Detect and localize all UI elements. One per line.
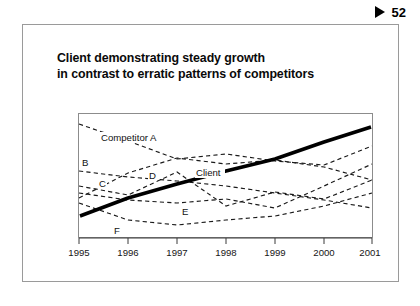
page-title-line-1: Client demonstrating steady growth xyxy=(57,51,377,67)
series-label-competitor-f: F xyxy=(114,225,120,236)
series-label-competitor-b: B xyxy=(82,157,88,168)
series-label-competitor-d: D xyxy=(149,170,156,181)
page-marker: 52 xyxy=(375,4,406,20)
x-tick-label: 1996 xyxy=(117,247,138,258)
series-label-competitor-a: Competitor A xyxy=(101,132,157,143)
x-tick-label: 1999 xyxy=(264,247,285,258)
page-title-line-2: in contrast to erratic patterns of compe… xyxy=(57,67,377,83)
x-tick-label: 2000 xyxy=(313,247,334,258)
x-tick-label: 1995 xyxy=(68,247,89,258)
x-axis-ticks xyxy=(79,238,372,244)
x-tick-label: 1998 xyxy=(215,247,236,258)
series-label-competitor-e: E xyxy=(182,206,188,217)
x-tick-label: 2001 xyxy=(359,247,380,258)
page-title: Client demonstrating steady growth in co… xyxy=(57,51,377,82)
series-label-competitor-c: C xyxy=(99,178,106,189)
x-tick-label: 1997 xyxy=(166,247,187,258)
series-label-client: Client xyxy=(196,167,221,178)
triangle-right-icon xyxy=(375,6,385,18)
page-number: 52 xyxy=(392,6,406,19)
line-chart: Competitor A B C D Client E F xyxy=(53,88,383,266)
x-axis-tick-labels: 1995 1996 1997 1998 1999 2000 2001 xyxy=(68,247,380,258)
slide-card: Client demonstrating steady growth in co… xyxy=(22,24,399,282)
